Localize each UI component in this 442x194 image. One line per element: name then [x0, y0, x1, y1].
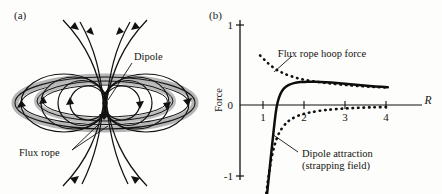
annotation-flux-rope-hoop-force: Flux rope hoop force [274, 48, 367, 72]
dipole-flux-rope-diagram: Dipole Flux rope [15, 20, 195, 186]
dipole-label: Dipole [134, 51, 163, 62]
flux-rope-label: Flux rope [19, 147, 60, 158]
arrowhead-loop-right-mid [136, 101, 144, 109]
annotation-dipole-attraction: Dipole attraction (strapping field) [272, 134, 374, 172]
force-plot: 1 0 -1 1 2 3 4 R Force Flux rope hoop fo… [213, 19, 432, 194]
field-line-arrowheads [70, 22, 140, 184]
annotation-dipole-text-line1: Dipole attraction [302, 148, 374, 159]
x-tick-label-3: 3 [342, 111, 348, 123]
y-tick-label-0: 0 [228, 99, 234, 111]
x-tick-label-4: 4 [383, 111, 389, 123]
y-tick-label-minus1: -1 [224, 170, 233, 182]
open-field-line-top-left-1 [63, 20, 104, 103]
x-axis-title: R [423, 94, 431, 106]
arrowhead-loop-left-mid [66, 97, 74, 105]
open-field-lines [63, 20, 147, 186]
figure-canvas: Dipole Flux rope [0, 0, 442, 194]
field-loop-right-1 [104, 86, 140, 120]
series-net-force [267, 82, 388, 194]
y-axis-title: Force [213, 88, 224, 112]
arrowhead-loop-right-far [183, 98, 192, 106]
arrowhead-top-left-b [86, 27, 94, 35]
arrowhead-top-right-b [116, 27, 124, 35]
figure-root: (a) (b) [0, 0, 442, 194]
annotation-dipole-text-line2: (strapping field) [302, 160, 370, 172]
y-tick-label-1: 1 [228, 19, 234, 31]
x-tick-label-1: 1 [260, 111, 266, 123]
